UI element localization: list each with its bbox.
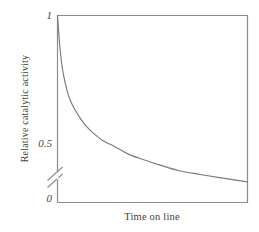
axis-break-slash-lower	[48, 167, 63, 181]
axis-break-slash-upper	[48, 174, 63, 188]
axis-break-marker	[48, 167, 63, 188]
y-axis-title: Relative catalytic activity	[19, 19, 30, 199]
decay-curve	[58, 16, 248, 182]
frame-rect	[58, 16, 248, 203]
chart-figure: 1 0.5 0 Relative catalytic activity Time…	[0, 0, 259, 232]
y-tick-label-1: 1	[26, 10, 52, 21]
x-axis-title: Time on line	[57, 211, 247, 222]
y-tick-label-0: 0	[26, 193, 52, 204]
data-series-relative-catalytic-activity	[58, 16, 248, 182]
axis-frame	[58, 16, 248, 203]
